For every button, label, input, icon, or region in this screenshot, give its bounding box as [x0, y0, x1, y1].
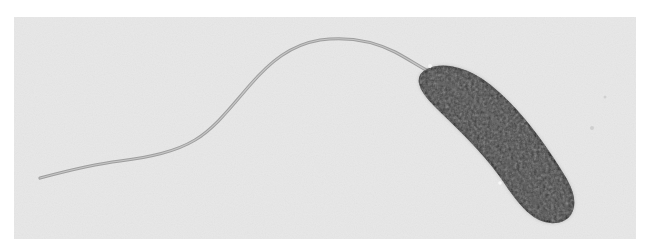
- micrograph-image: [14, 17, 636, 239]
- bacterium-illustration: [14, 17, 636, 239]
